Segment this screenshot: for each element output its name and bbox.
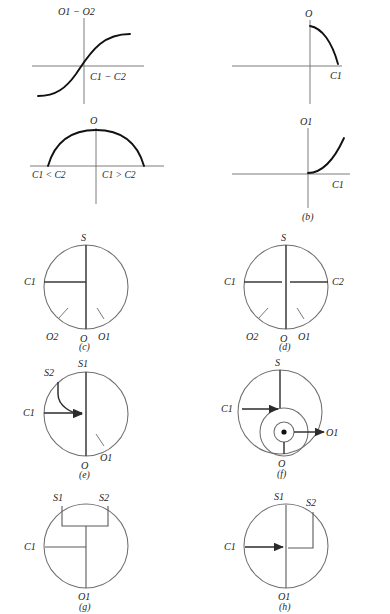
tick-o1 xyxy=(297,308,304,319)
panel-g-svg: S1 S2 C1 O1 (g) xyxy=(20,484,170,610)
label-left: C1 xyxy=(224,276,236,287)
label-top-right: S2 xyxy=(99,492,109,503)
figure-sheet: O1 − O2 C1 − C2 O C1 O C1 < C2 C1 > C2 xyxy=(0,0,390,614)
panel-g: S1 S2 C1 O1 (g) xyxy=(20,484,170,610)
panel-sigmoid-svg: O1 − O2 C1 − C2 xyxy=(18,4,178,108)
y-axis-label: O1 − O2 xyxy=(58,6,95,17)
concave-decreasing-curve xyxy=(310,26,338,64)
panel-caption: (h) xyxy=(279,601,290,613)
label-left: C1 xyxy=(221,403,233,414)
y-axis-label: O1 xyxy=(300,116,312,127)
panel-concave-decreasing-svg: O C1 xyxy=(210,4,380,108)
panel-d-svg: S C1 C2 O O2 O1 (d) xyxy=(212,232,372,350)
convex-increasing-curve xyxy=(308,138,344,173)
x-axis-label: C1 xyxy=(332,179,344,190)
label-left: C1 xyxy=(224,541,236,552)
panel-f-svg: S C1 O1 O (f) xyxy=(212,356,377,476)
label-top-left: S1 xyxy=(274,491,284,502)
y-axis-label: O xyxy=(305,8,313,19)
label-top: S xyxy=(281,232,286,243)
label-top-right: S2 xyxy=(306,497,316,508)
panel-inverted-u-svg: O C1 < C2 C1 > C2 xyxy=(18,112,188,208)
x-axis-label: C1 − C2 xyxy=(90,71,126,82)
panel-caption: (f) xyxy=(277,468,286,480)
panel-caption: (e) xyxy=(79,469,90,481)
label-right: C2 xyxy=(332,276,344,287)
panel-c-svg: S C1 O O2 O1 (c) xyxy=(20,232,170,350)
label-bottom-right: O1 xyxy=(298,331,310,342)
panel-h-svg: S1 S2 C1 O1 (h) xyxy=(212,484,372,610)
tick-o1 xyxy=(96,434,104,446)
label-bottom-right: O1 xyxy=(100,452,112,463)
panel-caption: (d) xyxy=(279,341,290,353)
panel-f: S C1 O1 O (f) xyxy=(212,356,377,476)
panel-caption: (c) xyxy=(79,341,90,353)
label-bottom-left: O2 xyxy=(46,331,58,342)
panel-h: S1 S2 C1 O1 (h) xyxy=(212,484,372,610)
label-bottom-right: O1 xyxy=(98,331,110,342)
label-right: O1 xyxy=(326,427,338,438)
x-axis-label-left: C1 < C2 xyxy=(32,169,66,180)
x-axis-label: C1 xyxy=(330,70,342,81)
panel-inverted-u: O C1 < C2 C1 > C2 xyxy=(18,112,188,208)
label-top: S xyxy=(275,357,280,368)
center-dot xyxy=(281,429,286,434)
label-bottom-left: O2 xyxy=(246,331,258,342)
label-top: S1 xyxy=(78,358,88,369)
s1-s2-bracket xyxy=(62,506,108,526)
panel-convex-increasing: O1 C1 (b) xyxy=(210,112,380,224)
tick-o1 xyxy=(97,308,104,319)
s2-elbow xyxy=(288,512,313,548)
label-top-left: S2 xyxy=(44,367,54,378)
label-top: S xyxy=(81,232,86,243)
panel-e-svg: S1 S2 C1 O O1 (e) xyxy=(20,356,170,476)
label-left: C1 xyxy=(24,541,36,552)
panel-c: S C1 O O2 O1 (c) xyxy=(20,232,170,350)
panel-d: S C1 C2 O O2 O1 (d) xyxy=(212,232,372,350)
x-axis-label-right: C1 > C2 xyxy=(102,169,136,180)
panel-concave-decreasing: O C1 xyxy=(210,4,380,108)
panel-caption: (g) xyxy=(79,601,90,613)
label-left: C1 xyxy=(23,407,35,418)
label-top-left: S1 xyxy=(53,492,63,503)
tick-o2 xyxy=(58,308,68,319)
y-axis-label: O xyxy=(90,115,98,126)
panel-convex-increasing-svg: O1 C1 (b) xyxy=(210,112,380,224)
label-left: C1 xyxy=(24,276,36,287)
s2-elbow-arc-arrow xyxy=(58,382,82,414)
panel-sigmoid: O1 − O2 C1 − C2 xyxy=(18,4,178,108)
panel-caption: (b) xyxy=(302,211,313,223)
tick-o2 xyxy=(258,308,268,319)
panel-e: S1 S2 C1 O O1 (e) xyxy=(20,356,170,476)
